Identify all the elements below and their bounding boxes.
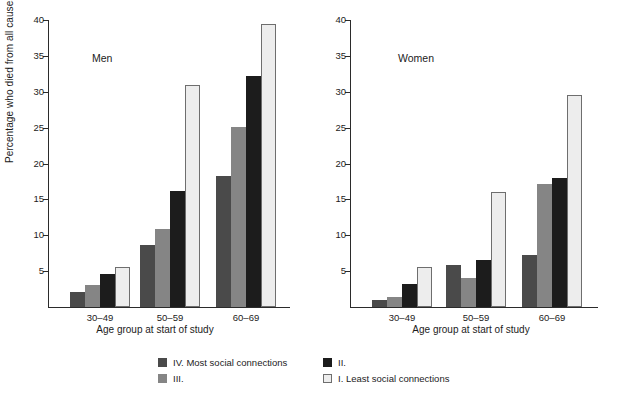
x-axis-line-men (48, 307, 290, 308)
legend-item-i: I. Least social connections (323, 373, 449, 384)
bar (246, 76, 261, 307)
bar (85, 285, 100, 307)
panel-men: Percentage who died from all causes Men … (0, 0, 310, 350)
bar-group-30-49 (70, 20, 130, 307)
bar (115, 267, 130, 307)
bar (491, 192, 506, 307)
bar-group-30-49 (372, 20, 432, 307)
bar (70, 292, 85, 307)
plot-area-women: 510152025303540 30–4950–5960–69 (350, 20, 592, 307)
panel-women: Women 510152025303540 30–4950–5960–69 Ag… (310, 0, 620, 350)
legend-label-i: I. Least social connections (338, 373, 449, 384)
y-tick-label: 15 (335, 195, 346, 205)
x-axis-title-men: Age group at start of study (0, 324, 310, 335)
bar (402, 284, 417, 307)
bar (522, 255, 537, 307)
y-tick-label: 40 (33, 15, 44, 25)
legend-item-iv: IV. Most social connections (158, 357, 287, 368)
legend-swatch-iv-icon (158, 358, 167, 367)
bar (537, 184, 552, 307)
legend: IV. Most social connections III. II. I. … (158, 357, 578, 391)
x-tick-label: 50–59 (463, 312, 489, 323)
legend-item-iii: III. (158, 373, 184, 384)
y-tick-label: 35 (335, 51, 346, 61)
legend-label-iii: III. (173, 373, 184, 384)
y-tick-label: 5 (39, 266, 44, 276)
y-tick-label: 15 (33, 195, 44, 205)
bar (231, 127, 246, 307)
plot-area-men: 510152025303540 30–4950–5960–69 (48, 20, 290, 307)
y-tick-label: 30 (335, 87, 346, 97)
bar (216, 176, 231, 307)
bar (100, 274, 115, 307)
bar-group-50-59 (140, 20, 200, 307)
bar-group-60-69 (216, 20, 276, 307)
legend-swatch-iii-icon (158, 374, 167, 383)
y-tick-label: 20 (335, 159, 346, 169)
bar (446, 265, 461, 307)
x-tick-label: 60–69 (539, 312, 565, 323)
x-tick-label: 60–69 (233, 312, 259, 323)
y-tick-label: 40 (335, 15, 346, 25)
bar (185, 85, 200, 307)
bar (155, 229, 170, 307)
bar (567, 95, 582, 307)
y-tick-label: 25 (33, 123, 44, 133)
legend-swatch-i-icon (323, 374, 332, 383)
bar-group-60-69 (522, 20, 582, 307)
bar (417, 267, 432, 307)
bar (140, 245, 155, 307)
y-tick-label: 5 (341, 266, 346, 276)
legend-swatch-ii-icon (323, 358, 332, 367)
legend-label-ii: II. (338, 357, 346, 368)
bar (372, 300, 387, 307)
x-axis-line-women (350, 307, 598, 308)
x-tick-label: 50–59 (157, 312, 183, 323)
legend-item-ii: II. (323, 357, 346, 368)
bar (261, 24, 276, 307)
y-tick-label: 20 (33, 159, 44, 169)
y-tick-label: 10 (33, 231, 44, 241)
bar (461, 278, 476, 307)
bar (476, 260, 491, 307)
bar (387, 297, 402, 307)
y-tick-label: 25 (335, 123, 346, 133)
bar-group-50-59 (446, 20, 506, 307)
x-tick-label: 30–49 (389, 312, 415, 323)
y-axis-label: Percentage who died from all causes (4, 0, 15, 163)
x-axis-title-women: Age group at start of study (316, 324, 620, 335)
legend-label-iv: IV. Most social connections (173, 357, 287, 368)
figure-grouped-bar-charts: Percentage who died from all causes Men … (0, 0, 620, 405)
bar (552, 178, 567, 307)
y-tick-label: 10 (335, 231, 346, 241)
x-tick-label: 30–49 (87, 312, 113, 323)
y-tick-label: 35 (33, 51, 44, 61)
bar (170, 191, 185, 307)
y-tick-label: 30 (33, 87, 44, 97)
